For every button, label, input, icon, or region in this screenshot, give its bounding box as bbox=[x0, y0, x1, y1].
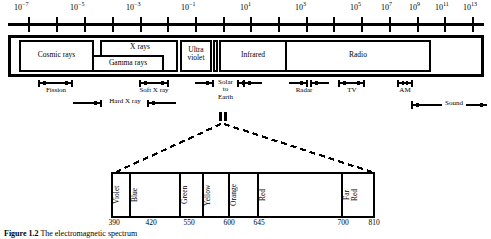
green-label: Green bbox=[181, 176, 203, 214]
tick-label: 10−1 bbox=[181, 4, 195, 12]
soft-x-ray-label: Soft X ray bbox=[128, 87, 180, 94]
sound-label: Sound bbox=[440, 100, 468, 107]
blue-label: Blue bbox=[131, 176, 180, 214]
orange-label: Orange bbox=[230, 176, 258, 214]
tick-label: 1011 bbox=[435, 4, 449, 12]
wavelength-645: 645 bbox=[245, 219, 273, 227]
hard-x-ray-label: Hard X ray bbox=[101, 98, 149, 105]
electromagnetic-spectrum-figure: 10−7 10−5 10−3 10−1 101 103 105 107 109 … bbox=[0, 0, 491, 239]
fission-label: Fission bbox=[30, 87, 82, 94]
violet-label: Violet bbox=[113, 176, 130, 214]
tick-label: 10−5 bbox=[70, 4, 84, 12]
radar-label: Radar bbox=[288, 87, 320, 94]
wavelength-550: 550 bbox=[175, 219, 203, 227]
visible-slot-markers bbox=[219, 112, 228, 121]
figure-caption-number: Figure 1.2 bbox=[4, 229, 39, 238]
tick-label: 10−7 bbox=[14, 4, 28, 12]
x-rays-label: X rays bbox=[104, 43, 176, 51]
tick-label: 105 bbox=[350, 4, 361, 12]
infrared-label: Infrared bbox=[220, 51, 286, 59]
tv-label: TV bbox=[341, 87, 363, 94]
ultraviolet-label: Ultra violet bbox=[181, 46, 211, 62]
far-red-label: Far Red bbox=[343, 176, 374, 214]
wavelength-600: 600 bbox=[215, 219, 243, 227]
red-label: Red bbox=[259, 176, 342, 214]
tick-label: 103 bbox=[295, 4, 306, 12]
tick-label: 1013 bbox=[463, 4, 477, 12]
wavelength-420: 420 bbox=[137, 219, 165, 227]
wavelength-810: 810 bbox=[360, 219, 388, 227]
gamma-rays-label: Gamma rays bbox=[93, 59, 163, 67]
solar-to-earth-label: Solar to Earth bbox=[213, 79, 238, 101]
figure-caption-text: The electromagnetic spectrum bbox=[40, 229, 137, 238]
radio-label: Radio bbox=[286, 51, 430, 59]
figure-caption: Figure 1.2 The electromagnetic spectrum bbox=[4, 229, 137, 238]
visible-light-slot bbox=[214, 41, 217, 71]
am-label: AM bbox=[394, 87, 416, 94]
wavelength-390: 390 bbox=[100, 219, 128, 227]
wavelength-700: 700 bbox=[329, 219, 357, 227]
tick-label: 101 bbox=[240, 4, 251, 12]
tick-label: 107 bbox=[381, 4, 392, 12]
tick-label: 109 bbox=[409, 4, 420, 12]
yellow-label: Yellow bbox=[204, 176, 229, 214]
expansion-leader-lines bbox=[116, 124, 372, 172]
cosmic-rays-label: Cosmic rays bbox=[20, 51, 93, 59]
tick-label: 10−3 bbox=[126, 4, 140, 12]
